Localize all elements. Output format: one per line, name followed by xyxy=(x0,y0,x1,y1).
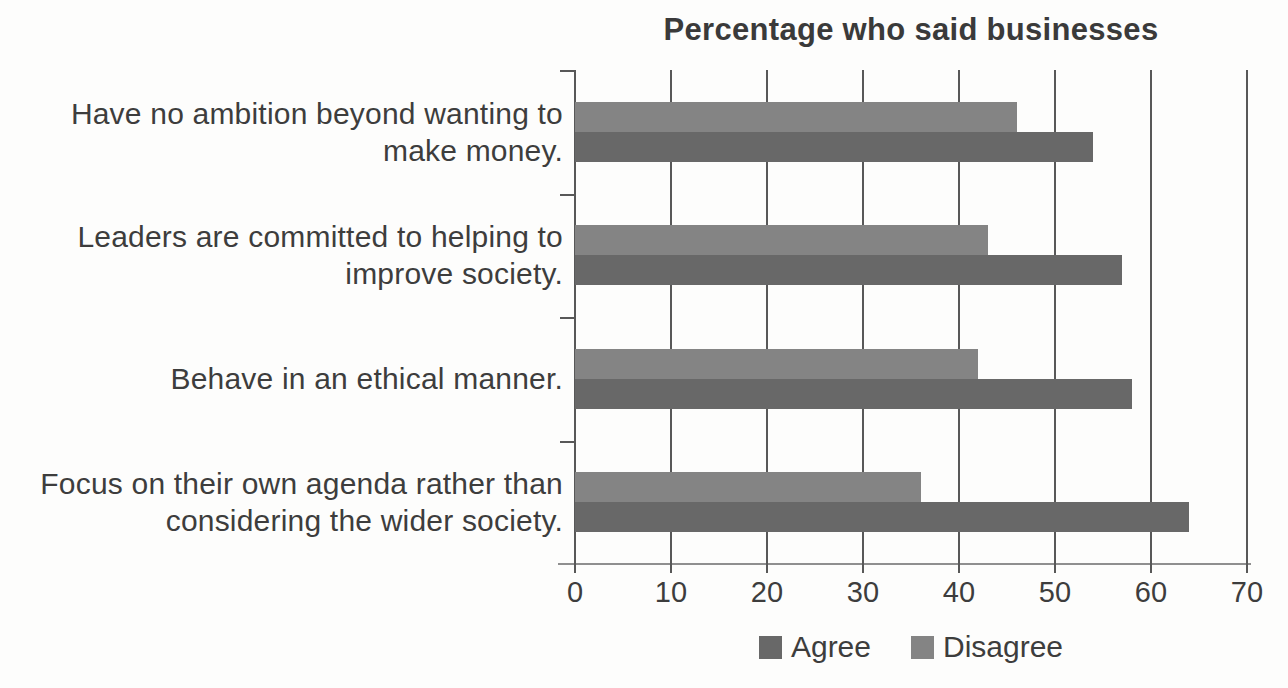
bar-agree-3 xyxy=(575,379,1132,409)
x-tick-label-60: 60 xyxy=(1113,576,1189,609)
category-label-1: Have no ambition beyond wanting to make … xyxy=(0,70,563,194)
x-tick-label-20: 20 xyxy=(729,576,805,609)
category-tick-1 xyxy=(560,194,575,196)
legend-swatch-disagree xyxy=(911,636,934,659)
category-label-3: Behave in an ethical manner. xyxy=(0,317,563,441)
legend-item-agree: Agree xyxy=(759,630,871,664)
plot-area xyxy=(575,70,1247,564)
category-tick-2 xyxy=(560,317,575,319)
legend-swatch-agree xyxy=(759,636,782,659)
category-label-4: Focus on their own agenda rather than co… xyxy=(0,441,563,565)
legend: AgreeDisagree xyxy=(575,630,1247,664)
x-tick-label-40: 40 xyxy=(921,576,997,609)
chart-title: Percentage who said businesses xyxy=(575,12,1247,48)
legend-item-disagree: Disagree xyxy=(911,630,1063,664)
legend-label-disagree: Disagree xyxy=(943,630,1063,664)
bar-agree-2 xyxy=(575,255,1122,285)
category-label-2: Leaders are committed to helping to impr… xyxy=(0,194,563,318)
scanned-chart-page: Percentage who said businesses Have no a… xyxy=(0,0,1288,688)
x-tick-label-30: 30 xyxy=(825,576,901,609)
category-tick-3 xyxy=(560,441,575,443)
bar-disagree-2 xyxy=(575,225,988,255)
gridline-70 xyxy=(1246,70,1248,573)
bar-disagree-4 xyxy=(575,472,921,502)
x-axis-line xyxy=(558,563,1251,565)
x-tick-label-0: 0 xyxy=(537,576,613,609)
category-tick-0 xyxy=(560,70,575,72)
bar-disagree-1 xyxy=(575,102,1017,132)
x-tick-label-70: 70 xyxy=(1209,576,1285,609)
bar-agree-4 xyxy=(575,502,1189,532)
x-tick-label-50: 50 xyxy=(1017,576,1093,609)
category-labels: Have no ambition beyond wanting to make … xyxy=(0,70,563,564)
x-tick-label-10: 10 xyxy=(633,576,709,609)
legend-label-agree: Agree xyxy=(791,630,871,664)
bar-disagree-3 xyxy=(575,349,978,379)
bar-agree-1 xyxy=(575,132,1093,162)
gridline-60 xyxy=(1150,70,1152,573)
